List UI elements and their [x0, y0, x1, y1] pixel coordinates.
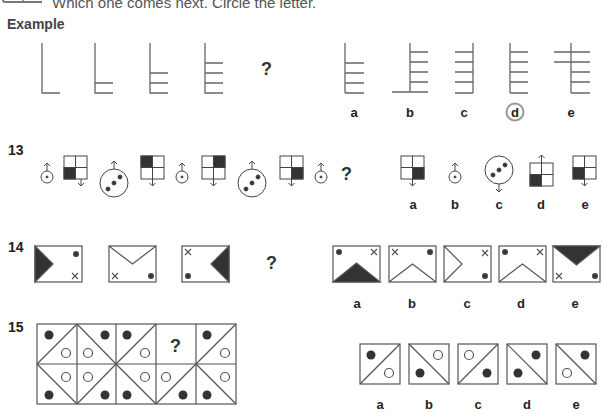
example-option-a[interactable]: a [344, 105, 364, 120]
q13-question-mark: ? [341, 164, 352, 185]
q13-option-a[interactable]: a [403, 197, 423, 212]
q14-option-e[interactable]: e [565, 296, 585, 311]
q14-option-c[interactable]: c [457, 296, 477, 311]
q14-option-a[interactable]: a [347, 296, 367, 311]
q13-option-b[interactable]: b [445, 197, 465, 212]
q15-option-d[interactable]: d [517, 397, 537, 412]
q15-option-b[interactable]: b [419, 397, 439, 412]
example-option-e[interactable]: e [561, 105, 581, 120]
q13-option-c[interactable]: c [489, 197, 509, 212]
example-option-b[interactable]: b [400, 105, 420, 120]
q14-question-mark: ? [266, 253, 277, 274]
q14-option-b[interactable]: b [402, 296, 422, 311]
q15-options [360, 344, 596, 384]
question-number-13: 13 [8, 142, 24, 158]
example-option-c[interactable]: c [454, 105, 474, 120]
q13-sequence [41, 155, 596, 197]
q15-option-c[interactable]: c [468, 397, 488, 412]
example-option-d[interactable]: d [505, 105, 525, 120]
q13-option-d[interactable]: d [531, 197, 551, 212]
q15-option-a[interactable]: a [370, 397, 390, 412]
example-sequence [42, 43, 590, 93]
q15-option-e[interactable]: e [566, 397, 586, 412]
question-number-14: 14 [8, 239, 24, 255]
question-number-15: 15 [8, 319, 24, 335]
puzzle-figures [0, 0, 603, 414]
example-question-mark: ? [261, 59, 272, 80]
q15-question-mark: ? [170, 336, 181, 357]
q13-option-e[interactable]: e [575, 197, 595, 212]
q14-sequence [35, 246, 600, 282]
q14-option-d[interactable]: d [511, 296, 531, 311]
q15-dots [45, 331, 230, 400]
